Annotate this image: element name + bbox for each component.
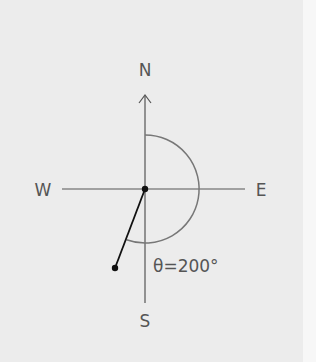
origin-point xyxy=(142,186,148,192)
bearing-vector xyxy=(115,189,145,268)
vector-endpoint xyxy=(112,265,118,271)
label-east: E xyxy=(256,180,267,200)
angle-label: θ=200° xyxy=(153,256,219,276)
label-south: S xyxy=(140,311,151,331)
label-west: W xyxy=(35,180,52,200)
label-north: N xyxy=(139,60,152,80)
compass-diagram: N S E W θ=200° xyxy=(0,0,316,362)
